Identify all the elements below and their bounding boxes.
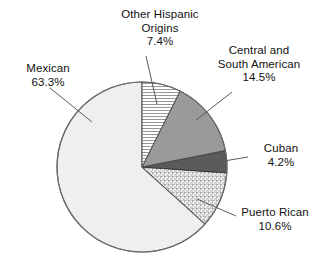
slice-label-puerto-rican: Puerto Rican 10.6% <box>232 206 318 233</box>
slice-label-other-hispanic-line1: Other Hispanic <box>104 8 216 22</box>
slice-value-cuban: 4.2% <box>244 156 318 170</box>
slice-value-central-south-american: 14.5% <box>200 71 318 85</box>
slice-label-cuban: Cuban 4.2% <box>244 142 318 169</box>
slice-value-puerto-rican: 10.6% <box>232 220 318 234</box>
slice-label-mexican: Mexican 63.3% <box>6 62 90 89</box>
slice-label-puerto-rican-line1: Puerto Rican <box>232 206 318 220</box>
slice-label-central-south-line2: South American <box>200 58 318 72</box>
slice-label-other-hispanic-line2: Origins <box>104 22 216 36</box>
slice-label-central-south-line1: Central and <box>200 44 318 58</box>
pie-chart-figure: Other Hispanic Origins 7.4% Central and … <box>0 0 321 265</box>
slice-value-mexican: 63.3% <box>6 76 90 90</box>
slice-label-other-hispanic-origins: Other Hispanic Origins 7.4% <box>104 8 216 49</box>
slice-label-mexican-line1: Mexican <box>6 62 90 76</box>
slice-label-central-south-american: Central and South American 14.5% <box>200 44 318 85</box>
slice-label-cuban-line1: Cuban <box>244 142 318 156</box>
